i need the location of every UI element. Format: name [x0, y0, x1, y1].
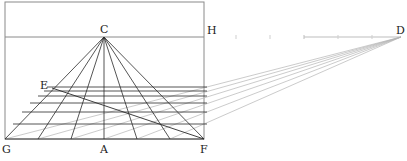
label-c: C: [100, 23, 108, 36]
label-h: H: [207, 24, 217, 37]
label-a: A: [99, 143, 109, 156]
horizon-extension: [236, 35, 401, 39]
perspective-diagram: C H D E G A F: [0, 0, 407, 161]
label-f: F: [200, 143, 208, 156]
label-d: D: [396, 24, 405, 37]
label-e: E: [40, 79, 48, 92]
label-g: G: [2, 143, 11, 156]
